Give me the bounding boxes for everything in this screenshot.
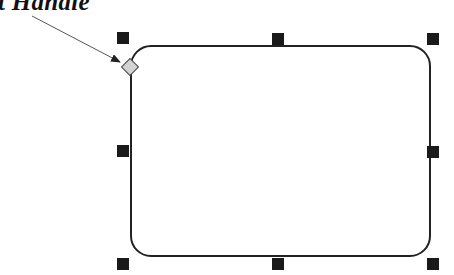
resize-handle-middle-left[interactable] [117,145,129,157]
resize-handle-bottom-center[interactable] [272,258,284,270]
resize-handle-bottom-right[interactable] [427,258,439,270]
resize-handle-top-center[interactable] [272,33,284,45]
resize-handle-bottom-left[interactable] [117,258,129,270]
resize-handle-top-left[interactable] [117,32,129,44]
callout-arrow [32,16,120,62]
resize-handle-middle-right[interactable] [427,146,439,158]
resize-handle-top-right[interactable] [427,33,439,45]
rounded-rectangle-shape[interactable] [131,46,430,256]
diagram-canvas [0,0,454,275]
